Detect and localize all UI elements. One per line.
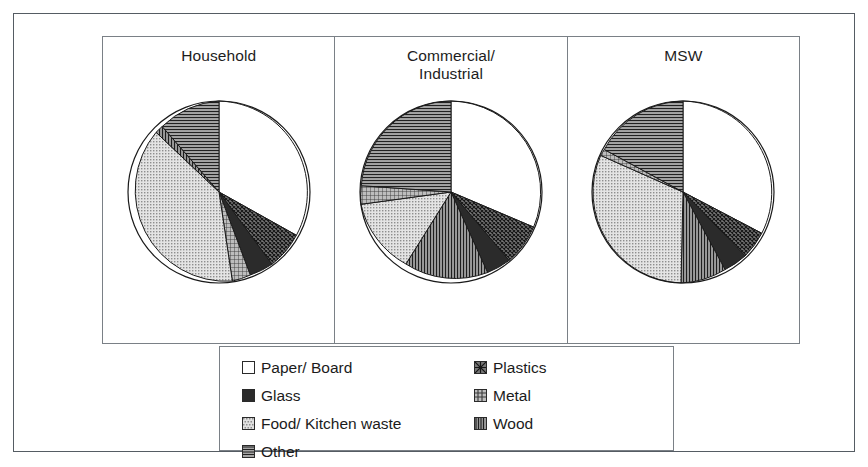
- legend-swatch-metal-icon: [474, 389, 487, 402]
- panel-title-msw: MSW: [664, 47, 702, 65]
- legend-item-glass[interactable]: Glass: [242, 383, 474, 408]
- pie-chart-commercial-industrial: [358, 99, 544, 285]
- panel-title-commercial-industrial: Commercial/ Industrial: [407, 47, 495, 83]
- chart-legend: Paper/ Board Plastics Glass: [219, 346, 674, 451]
- legend-spacer: [474, 439, 673, 464]
- legend-item-metal[interactable]: Metal: [474, 383, 673, 408]
- legend-item-food[interactable]: Food/ Kitchen waste: [242, 411, 474, 436]
- panel-msw: MSW: [567, 37, 799, 343]
- legend-grid: Paper/ Board Plastics Glass: [242, 355, 673, 464]
- pie-svg-commercial-industrial: [358, 99, 544, 285]
- legend-swatch-other-icon: [242, 445, 255, 458]
- pie-svg-msw: [590, 99, 776, 285]
- legend-swatch-plastics-icon: [474, 361, 487, 374]
- legend-swatch-glass-icon: [242, 389, 255, 402]
- pie-panels-container: Household: [102, 36, 800, 344]
- legend-item-plastics[interactable]: Plastics: [474, 355, 673, 380]
- panel-commercial-industrial: Commercial/ Industrial: [334, 37, 566, 343]
- legend-swatch-food-icon: [242, 417, 255, 430]
- legend-item-wood[interactable]: Wood: [474, 411, 673, 436]
- panel-household: Household: [103, 37, 334, 343]
- legend-swatch-paper-icon: [242, 361, 255, 374]
- pie-chart-household: [126, 99, 312, 285]
- legend-label-wood: Wood: [493, 415, 533, 432]
- legend-label-plastics: Plastics: [493, 359, 546, 376]
- panel-title-household: Household: [181, 47, 256, 65]
- legend-item-paper[interactable]: Paper/ Board: [242, 355, 474, 380]
- legend-label-other: Other: [261, 443, 300, 460]
- legend-label-food: Food/ Kitchen waste: [261, 415, 401, 432]
- figure-frame: Household: [13, 13, 855, 452]
- pie-svg-household: [126, 99, 312, 285]
- legend-label-metal: Metal: [493, 387, 531, 404]
- pie-chart-msw: [590, 99, 776, 285]
- legend-label-paper: Paper/ Board: [261, 359, 352, 376]
- legend-label-glass: Glass: [261, 387, 301, 404]
- legend-swatch-wood-icon: [474, 417, 487, 430]
- legend-item-other[interactable]: Other: [242, 439, 474, 464]
